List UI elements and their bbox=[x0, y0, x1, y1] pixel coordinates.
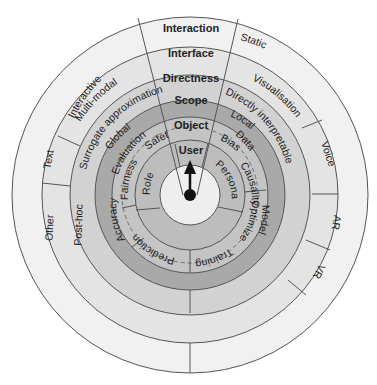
interaction-header: Interaction bbox=[163, 22, 220, 34]
user-header: User bbox=[179, 144, 204, 156]
label-ar: AR bbox=[330, 214, 344, 231]
label-post-hoc: Post-hoc bbox=[71, 204, 84, 246]
object-header: Object bbox=[174, 119, 209, 131]
directness-header: Directness bbox=[163, 72, 219, 84]
scope-header: Scope bbox=[174, 94, 207, 106]
interface-header: Interface bbox=[168, 47, 214, 59]
taxonomy-diagram: Interaction Interface Directness Scope O… bbox=[0, 0, 377, 385]
concentric-ring-diagram: Interaction Interface Directness Scope O… bbox=[0, 0, 377, 385]
label-other: Other bbox=[43, 214, 56, 241]
